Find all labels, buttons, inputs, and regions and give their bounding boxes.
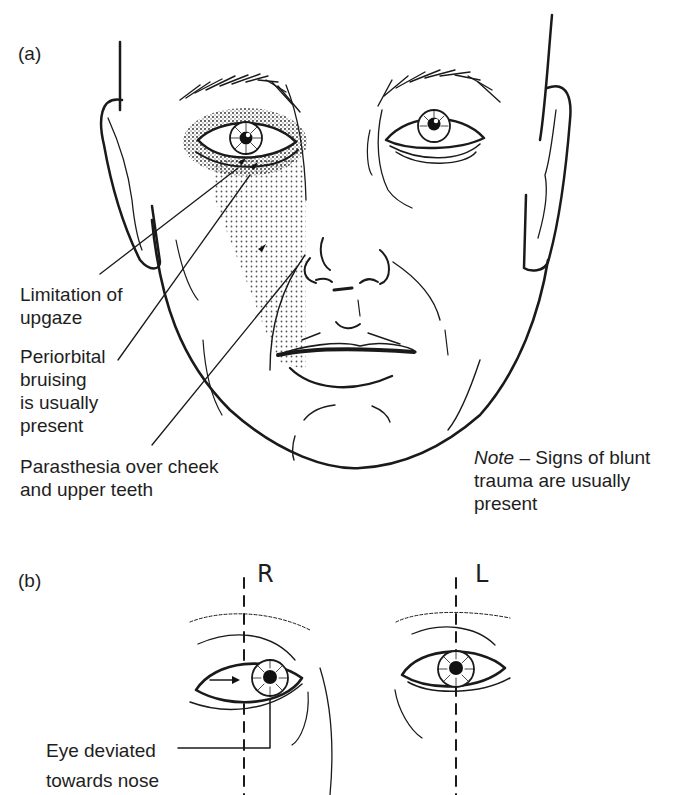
right-eye-label: R [257,560,274,588]
left-ear [524,86,570,270]
callout-parasthesia: Parasthesia over cheek and upper teeth [20,455,219,501]
note-emphasis: Note [474,447,514,468]
right-eyebrow [180,74,300,112]
callout-eye-deviated: Eye deviated towards nose [46,736,159,795]
head-right-outline [540,15,552,140]
left-eye-b [402,651,510,691]
left-eyebrow [378,70,500,106]
nose [305,238,389,328]
callout-periorbital-bruising: Periorbital bruising is usually present [20,345,106,437]
panel-a-label: (a) [18,43,41,65]
callout-limitation-of-upgaze: Limitation of upgaze [20,283,122,329]
panel-b-label: (b) [18,570,41,592]
left-eye-a [386,110,484,163]
right-ear [101,100,160,269]
left-eye-label: L [475,560,488,588]
cheek-stipple [212,160,306,370]
note-blunt-trauma: Note – Signs of blunt trauma are usually… [474,446,650,515]
right-eye-b [190,660,302,709]
